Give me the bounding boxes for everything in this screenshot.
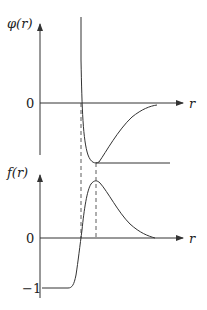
potential-curve <box>81 17 157 163</box>
top-plot: φ(r) 0 r <box>7 16 196 163</box>
top-x-label: r <box>189 96 196 111</box>
bottom-x-label: r <box>189 231 196 246</box>
bottom-minus-one-label: −1 <box>22 281 41 296</box>
top-y-label: φ(r) <box>7 16 32 31</box>
bottom-y-label: f(r) <box>6 165 28 180</box>
diagram-canvas: φ(r) 0 r f(r) 0 −1 r <box>0 0 207 310</box>
bottom-zero-label: 0 <box>26 231 34 246</box>
bottom-plot: f(r) 0 −1 r <box>6 165 196 298</box>
top-zero-label: 0 <box>26 96 34 111</box>
f-curve <box>42 181 155 288</box>
